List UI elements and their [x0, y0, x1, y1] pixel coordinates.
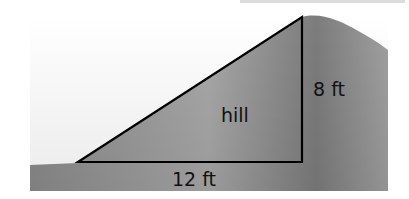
hill-shading: [30, 17, 388, 191]
base-label: 12 ft: [172, 170, 216, 189]
top-edge-band: [240, 0, 405, 3]
height-label: 8 ft: [313, 80, 345, 99]
region-label: hill: [221, 106, 249, 125]
